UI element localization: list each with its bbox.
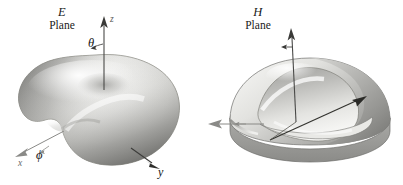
h-plane-lobe-body — [230, 58, 390, 162]
e-plane-title-word: Plane — [36, 19, 88, 31]
e-plane-title-symbol: E — [36, 6, 88, 19]
e-plane-x-axis-label: x — [18, 158, 22, 168]
e-plane-lobe-body — [19, 55, 180, 166]
h-plane-title-symbol: H — [232, 6, 284, 19]
h-plane-pattern-graphic — [200, 0, 403, 185]
h-plane-panel: H Plane z θ x ϕ y — [200, 0, 403, 185]
h-plane-theta-arrow — [281, 45, 293, 50]
h-plane-title-word: Plane — [232, 19, 284, 31]
e-plane-panel: E Plane z θ x ϕ y — [0, 0, 200, 185]
e-plane-z-axis-label: z — [110, 14, 114, 24]
radiation-pattern-figure: E Plane z θ x ϕ y — [0, 0, 403, 185]
e-plane-title: E Plane — [36, 6, 88, 31]
h-plane-title: H Plane — [232, 6, 284, 31]
e-plane-theta-label: θ — [88, 36, 94, 51]
e-plane-pattern-graphic — [0, 0, 200, 185]
e-plane-phi-label: ϕ — [36, 148, 42, 163]
e-plane-y-axis-label: y — [158, 165, 163, 180]
